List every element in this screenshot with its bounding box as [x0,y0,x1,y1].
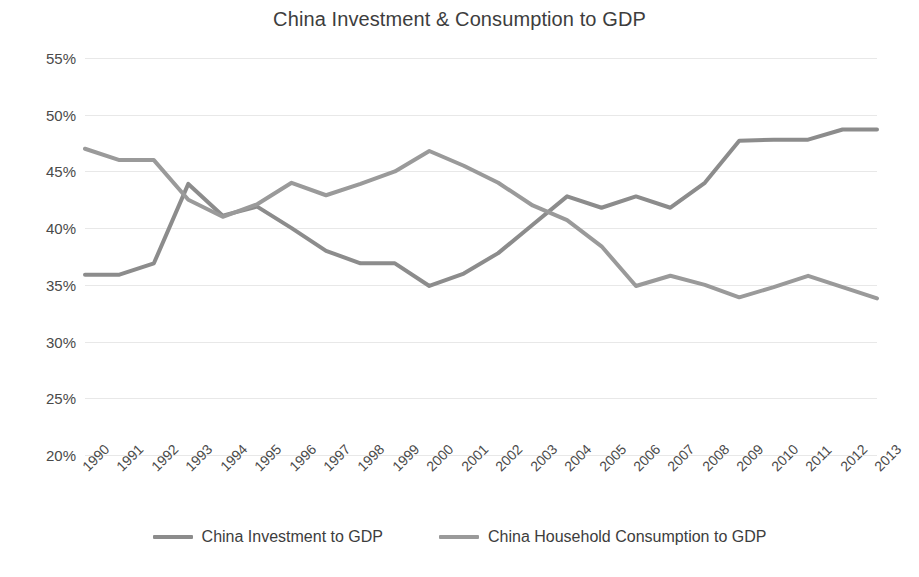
y-axis-tick-label: 40% [16,220,76,237]
legend-item[interactable]: China Investment to GDP [153,528,383,546]
y-axis-tick-label: 50% [16,106,76,123]
series-lines [85,58,877,455]
y-axis: 55%50%45%40%35%30%25%20% [10,58,76,455]
y-axis-tick-label: 45% [16,163,76,180]
y-axis-tick-label: 55% [16,50,76,67]
legend-item-label: China Household Consumption to GDP [488,528,766,546]
legend-line-icon [439,535,479,539]
y-axis-tick-label: 25% [16,390,76,407]
legend-line-icon [153,535,193,539]
chart-legend: China Investment to GDPChina Household C… [0,528,919,546]
legend-item-label: China Investment to GDP [202,528,383,546]
y-axis-tick-label: 20% [16,447,76,464]
y-axis-tick-label: 30% [16,333,76,350]
legend-item[interactable]: China Household Consumption to GDP [439,528,766,546]
plot-area [85,58,877,455]
chart-container: China Investment & Consumption to GDP 55… [0,0,919,577]
y-axis-tick-label: 35% [16,276,76,293]
series-line [85,149,877,299]
chart-title: China Investment & Consumption to GDP [0,8,919,31]
x-axis: 1990199119921993199419951996199719981999… [85,455,877,525]
